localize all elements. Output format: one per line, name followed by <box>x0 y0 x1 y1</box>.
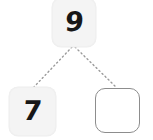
connector-line-left <box>33 47 72 88</box>
part-left-value: 7 <box>22 97 43 124</box>
whole-tile: 9 <box>52 0 96 47</box>
connector-line-right <box>75 47 117 88</box>
whole-value: 9 <box>64 8 85 35</box>
part-tile-left: 7 <box>9 87 56 136</box>
part-answer-box[interactable] <box>95 88 140 133</box>
number-bond-diagram: 9 7 <box>0 0 153 140</box>
